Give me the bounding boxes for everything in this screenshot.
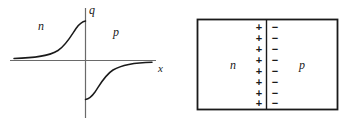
junction-region-label-p: p xyxy=(298,58,305,72)
charge-density-chart-panel: q x n p xyxy=(0,0,180,128)
negative-sign: − xyxy=(272,97,278,109)
chart-region-label-p: p xyxy=(112,25,119,39)
junction-outer-rect xyxy=(198,20,338,110)
positive-sign: + xyxy=(256,97,262,109)
chart-region-label-n: n xyxy=(38,19,44,33)
pn-junction-panel: n p + + + + + + + + − − − − − − − − xyxy=(180,0,355,128)
y-axis-label: q xyxy=(89,3,95,17)
x-axis-label: x xyxy=(157,62,163,74)
charge-sign-column-negative: − − − − − − − − xyxy=(272,21,278,109)
figure-root: q x n p n p + + + + + + + xyxy=(0,0,355,128)
junction-region-label-n: n xyxy=(230,58,236,72)
curve-negative-lobe xyxy=(86,62,153,99)
curve-positive-lobe xyxy=(14,21,86,59)
pn-junction-svg: n p + + + + + + + + − − − − − − − − xyxy=(180,0,355,128)
charge-sign-column-positive: + + + + + + + + xyxy=(256,21,262,109)
charge-density-svg: q x n p xyxy=(0,0,180,128)
